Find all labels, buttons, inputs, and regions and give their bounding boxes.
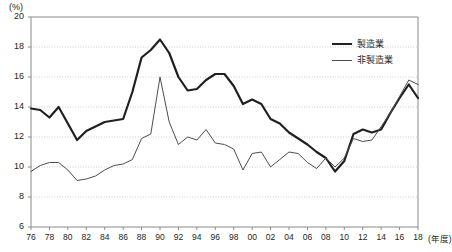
legend-item: 非製造業: [332, 52, 410, 68]
y-tick-label: 8: [0, 191, 24, 201]
y-tick-label: 18: [0, 41, 24, 51]
legend-item: 製造業: [332, 36, 410, 52]
chart-legend: 製造業非製造業: [332, 36, 410, 68]
y-tick-label: 6: [0, 221, 24, 231]
legend-line-swatch-icon: [332, 60, 352, 61]
legend-label: 製造業: [357, 40, 384, 49]
y-tick-label: 20: [0, 11, 24, 21]
y-tick-label: 14: [0, 101, 24, 111]
legend-line-swatch-icon: [332, 43, 352, 45]
x-axis-unit-label: (年度): [428, 232, 452, 244]
y-tick-label: 12: [0, 131, 24, 141]
y-tick-label: 10: [0, 161, 24, 171]
legend-label: 非製造業: [357, 56, 393, 65]
y-tick-label: 16: [0, 71, 24, 81]
gridlines: [31, 47, 418, 197]
